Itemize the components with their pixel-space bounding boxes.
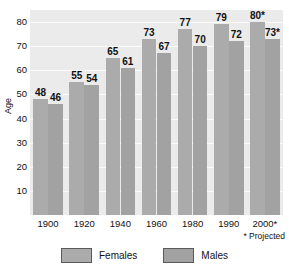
bar-males-1960: [157, 53, 172, 215]
legend-swatch: [61, 248, 92, 263]
bar-females-1920: [69, 82, 84, 215]
bar-males-1920: [84, 85, 99, 215]
legend-label: Females: [99, 250, 137, 261]
bar-value-label: 70: [189, 34, 212, 45]
y-tick-label: 70: [5, 41, 27, 51]
legend-swatch: [163, 248, 194, 263]
bar-value-label: 46: [44, 92, 67, 103]
bar-value-label: 61: [117, 56, 140, 67]
bar-value-label: 77: [174, 17, 197, 28]
x-tick-label: 1940: [102, 218, 138, 229]
y-tick-label: 40: [5, 114, 27, 124]
x-tick-label: 1920: [66, 218, 102, 229]
bar-males-1940: [121, 68, 136, 215]
bar-value-label: 79: [210, 12, 233, 23]
bar-females-1960: [142, 39, 157, 215]
x-tick-label: 1960: [138, 218, 174, 229]
x-tick-label: 1980: [175, 218, 211, 229]
bar-chart: Age 1020304050607080 * Projected Females…: [0, 0, 289, 273]
legend-item-males: Males: [163, 248, 228, 263]
legend-label: Males: [201, 250, 228, 261]
bar-females-1940: [106, 58, 121, 215]
bar-females-1900: [33, 99, 48, 215]
x-tick-label: 1990: [211, 218, 247, 229]
y-tick-label: 10: [5, 186, 27, 196]
footnote: * Projected: [243, 231, 285, 241]
x-tick-label: 1900: [30, 218, 66, 229]
y-tick-label: 50: [5, 89, 27, 99]
bar-value-label: 54: [80, 73, 103, 84]
bar-females-1980: [178, 29, 193, 215]
x-tick-label: 2000*: [247, 218, 283, 229]
bar-value-label: 72: [225, 29, 248, 40]
bar-males-1980: [193, 46, 208, 215]
bar-value-label: 73: [138, 27, 161, 38]
bar-males-1900: [48, 104, 63, 215]
bar-females-2000: [250, 22, 265, 215]
bar-females-1990: [214, 24, 229, 215]
y-tick-label: 60: [5, 65, 27, 75]
bar-value-label: 73*: [261, 27, 284, 38]
legend-item-females: Females: [61, 248, 137, 263]
chart-legend: FemalesMales: [0, 248, 289, 263]
bar-males-1990: [229, 41, 244, 215]
y-tick-label: 30: [5, 138, 27, 148]
y-tick-label: 20: [5, 162, 27, 172]
bar-value-label: 67: [153, 41, 176, 52]
y-tick-label: 80: [5, 17, 27, 27]
bar-males-2000: [265, 39, 280, 215]
bar-value-label: 80*: [246, 10, 269, 21]
y-axis-ticks: 1020304050607080: [0, 0, 27, 273]
